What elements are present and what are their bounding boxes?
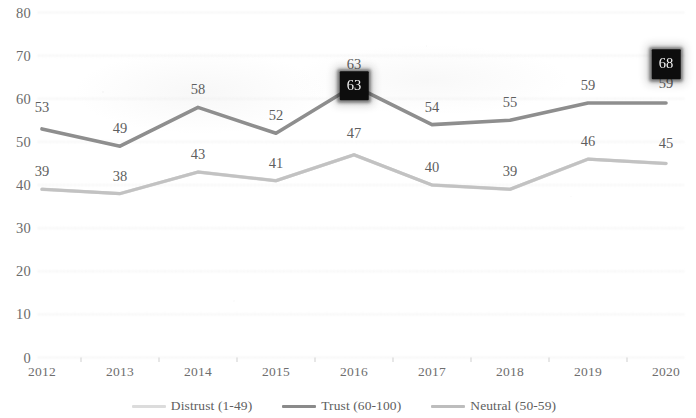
data-label: 46 — [565, 133, 611, 150]
x-axis-tick-label: 2019 — [558, 364, 618, 380]
chart-legend: Distrust (1-49)Trust (60-100)Neutral (50… — [0, 394, 688, 418]
x-axis-tick-label: 2016 — [324, 364, 384, 380]
data-label: 41 — [253, 154, 299, 171]
y-axis-tick-label: 10 — [1, 306, 31, 323]
y-axis-tick-label: 30 — [1, 220, 31, 237]
data-label: 39 — [487, 163, 533, 180]
data-label: 39 — [19, 163, 65, 180]
y-axis-labels: 80706050403020100 — [0, 0, 31, 418]
x-axis-tick-marks — [81, 358, 627, 363]
data-label: 40 — [409, 159, 455, 176]
y-axis-tick-label: 50 — [1, 133, 31, 150]
data-label: 53 — [19, 98, 65, 115]
y-axis-tick-label: 80 — [1, 4, 31, 21]
data-label: 49 — [97, 120, 143, 137]
highlight-annotation-box: 68 — [652, 50, 681, 80]
data-label: 54 — [409, 98, 455, 115]
data-label: 45 — [643, 135, 689, 152]
legend-label: Neutral (50-59) — [470, 398, 556, 414]
x-axis-tick-label: 2020 — [636, 364, 696, 380]
y-axis-tick-label: 70 — [1, 47, 31, 64]
y-axis-tick-label: 20 — [1, 263, 31, 280]
data-label: 38 — [97, 167, 143, 184]
legend-swatch-icon — [282, 405, 316, 408]
x-axis-tick-label: 2018 — [480, 364, 540, 380]
x-axis-tick-label: 2015 — [246, 364, 306, 380]
x-axis-tick-label: 2017 — [402, 364, 462, 380]
legend-swatch-icon — [431, 405, 465, 408]
data-label: 55 — [487, 94, 533, 111]
highlight-annotation-box: 63 — [340, 71, 369, 101]
data-label: 58 — [175, 81, 221, 98]
legend-label: Distrust (1-49) — [171, 398, 252, 414]
data-label: 47 — [331, 124, 377, 141]
data-label: 63 — [331, 55, 377, 72]
data-label: 59 — [565, 77, 611, 94]
x-axis-tick-label: 2014 — [168, 364, 228, 380]
data-label: 43 — [175, 146, 221, 163]
legend-label: Trust (60-100) — [321, 398, 401, 414]
legend-item[interactable]: Distrust (1-49) — [132, 398, 252, 414]
legend-item[interactable]: Trust (60-100) — [282, 398, 401, 414]
legend-item[interactable]: Neutral (50-59) — [431, 398, 556, 414]
legend-swatch-icon — [132, 405, 166, 408]
x-axis-tick-label: 2012 — [12, 364, 72, 380]
x-axis-tick-label: 2013 — [90, 364, 150, 380]
data-label: 52 — [253, 107, 299, 124]
